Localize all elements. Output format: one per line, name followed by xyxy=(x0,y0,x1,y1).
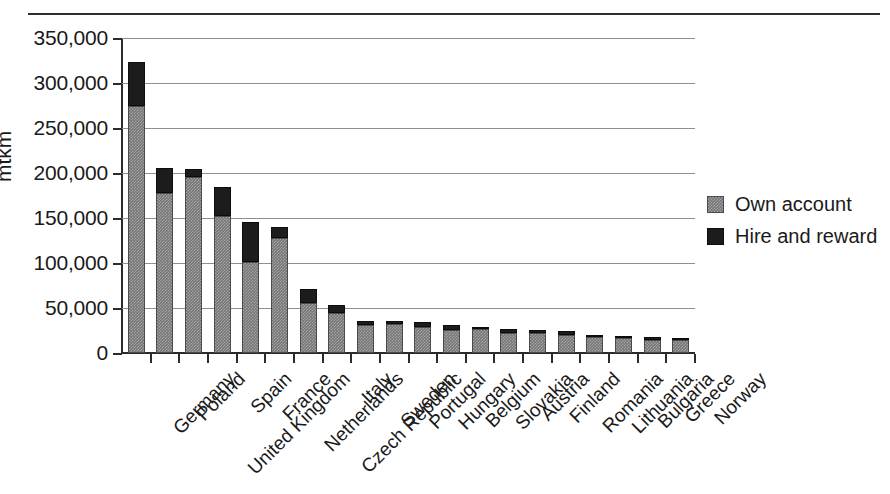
bar-belgium xyxy=(443,325,460,353)
y-axis-tick-label: 50,000 xyxy=(45,296,108,320)
bar-segment-own-account xyxy=(500,333,517,353)
bar-hungary xyxy=(414,322,431,353)
x-axis-tick xyxy=(694,354,696,363)
gridline xyxy=(122,263,695,264)
bar-france xyxy=(242,222,259,353)
bar-segment-own-account xyxy=(386,324,403,353)
x-axis-tick xyxy=(207,354,209,363)
y-axis-tick xyxy=(113,308,122,310)
bar-segment-hire-and-reward xyxy=(672,338,689,341)
x-axis-tick xyxy=(236,354,238,363)
legend-item-own-account: Own account xyxy=(707,193,877,216)
x-axis-tick xyxy=(579,354,581,363)
gridline xyxy=(122,38,695,39)
bar-united-kingdom xyxy=(185,169,202,353)
y-axis-tick xyxy=(113,83,122,85)
bar-greece xyxy=(644,337,661,353)
bar-segment-own-account xyxy=(672,340,689,353)
bar-italy xyxy=(328,305,345,353)
bar-segment-hire-and-reward xyxy=(271,227,288,238)
y-axis-tick-label: 300,000 xyxy=(33,71,108,95)
bar-segment-hire-and-reward xyxy=(328,305,345,312)
y-axis-tick-label: 350,000 xyxy=(33,26,108,50)
bar-spain xyxy=(214,187,231,353)
bar-segment-own-account xyxy=(586,337,603,353)
bar-sweden xyxy=(357,321,374,353)
bar-segment-own-account xyxy=(529,333,546,353)
y-axis-tick-label: 0 xyxy=(97,341,108,365)
bar-segment-hire-and-reward xyxy=(443,325,460,330)
y-axis-tick-label: 100,000 xyxy=(33,251,108,275)
legend-label-own-account: Own account xyxy=(735,193,852,216)
gridline xyxy=(122,218,695,219)
bar-segment-hire-and-reward xyxy=(185,169,202,176)
bar-segment-own-account xyxy=(644,340,661,354)
bar-segment-own-account xyxy=(128,106,145,353)
plot-area xyxy=(122,38,695,353)
bar-norway xyxy=(672,338,689,353)
bar-germany xyxy=(128,62,145,353)
x-axis-tick xyxy=(493,354,495,363)
y-axis-tick-label: 150,000 xyxy=(33,206,108,230)
bar-segment-hire-and-reward xyxy=(644,337,661,340)
bar-segment-hire-and-reward xyxy=(128,62,145,106)
x-axis-tick xyxy=(436,354,438,363)
gridline xyxy=(122,173,695,174)
x-axis-tick xyxy=(150,354,152,363)
bar-portugal xyxy=(386,321,403,353)
legend-item-hire-and-reward: Hire and reward xyxy=(707,225,877,248)
bar-segment-hire-and-reward xyxy=(300,289,317,303)
bar-segment-own-account xyxy=(300,303,317,353)
x-axis-tick xyxy=(178,354,180,363)
bar-segment-hire-and-reward xyxy=(214,187,231,216)
bar-finland xyxy=(529,330,546,353)
gridline xyxy=(122,83,695,84)
y-axis-tick xyxy=(113,38,122,40)
hire-and-reward-swatch-icon xyxy=(707,228,724,245)
bar-segment-hire-and-reward xyxy=(586,335,603,337)
bar-segment-own-account xyxy=(472,329,489,353)
bar-segment-hire-and-reward xyxy=(615,336,632,338)
own-account-swatch-icon xyxy=(707,196,724,213)
bar-lithuania xyxy=(586,335,603,353)
x-axis-tick xyxy=(322,354,324,363)
bar-czech-republic xyxy=(300,289,317,353)
bar-segment-hire-and-reward xyxy=(156,168,173,193)
bar-segment-own-account xyxy=(414,327,431,353)
x-axis-tick xyxy=(608,354,610,363)
chart-legend: Own account Hire and reward xyxy=(707,193,877,257)
bar-bulgaria xyxy=(615,336,632,353)
bar-segment-own-account xyxy=(328,313,345,354)
bar-segment-hire-and-reward xyxy=(529,330,546,334)
gridline xyxy=(122,308,695,309)
bar-segment-hire-and-reward xyxy=(242,222,259,263)
y-axis-tick xyxy=(113,128,122,130)
bar-romania xyxy=(558,331,575,353)
bar-segment-own-account xyxy=(185,177,202,353)
y-axis-tick-label: 200,000 xyxy=(33,161,108,185)
bar-segment-hire-and-reward xyxy=(386,321,403,325)
x-axis-tick xyxy=(293,354,295,363)
x-axis-tick xyxy=(379,354,381,363)
y-axis-tick xyxy=(113,218,122,220)
bar-segment-hire-and-reward xyxy=(357,321,374,326)
x-axis-tick xyxy=(465,354,467,363)
bar-segment-own-account xyxy=(156,193,173,353)
bar-segment-hire-and-reward xyxy=(558,331,575,335)
x-axis-tick xyxy=(665,354,667,363)
x-axis-tick xyxy=(522,354,524,363)
bar-segment-own-account xyxy=(558,335,575,353)
y-axis-tick-label: 250,000 xyxy=(33,116,108,140)
bar-segment-own-account xyxy=(443,330,460,353)
bar-segment-own-account xyxy=(271,238,288,353)
bar-netherlands xyxy=(271,227,288,353)
bar-segment-own-account xyxy=(357,325,374,353)
road-freight-transport-chart: mtkm 050,000100,000150,000200,000250,000… xyxy=(0,0,890,494)
bar-austria xyxy=(500,329,517,353)
x-axis-tick xyxy=(551,354,553,363)
bar-segment-own-account xyxy=(214,216,231,353)
y-axis-tick xyxy=(113,353,122,355)
header-rule xyxy=(28,13,880,15)
bar-segment-hire-and-reward xyxy=(500,329,517,334)
x-axis-tick xyxy=(350,354,352,363)
